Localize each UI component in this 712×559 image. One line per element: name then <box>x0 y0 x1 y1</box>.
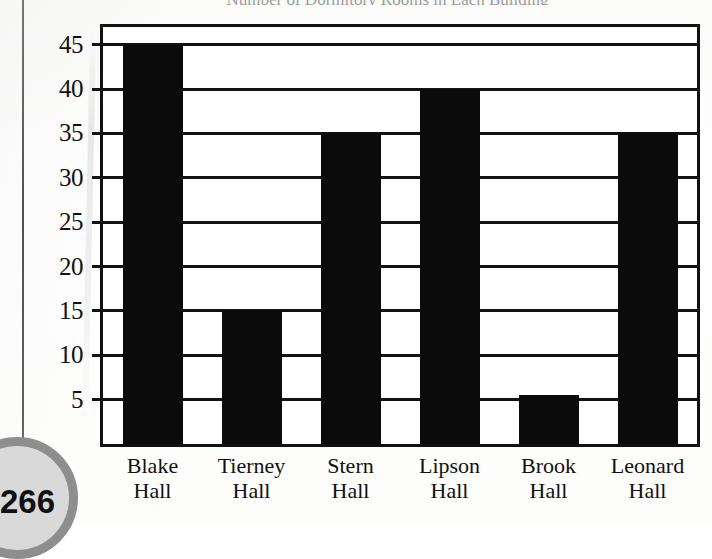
bar-leonard-hall <box>618 133 678 444</box>
x-axis-label-blake-hall: Blake Hall <box>103 453 202 503</box>
gridline-5 <box>103 398 697 401</box>
y-axis-label-40: 40 <box>59 76 83 101</box>
x-axis-label-stern-hall: Stern Hall <box>301 453 400 503</box>
y-axis-tick-35 <box>92 132 103 135</box>
plot-inner <box>103 27 697 444</box>
gridline-30 <box>103 176 697 179</box>
bar-chart-plot-area <box>100 24 700 447</box>
y-axis-tick-20 <box>92 265 103 268</box>
y-axis-label-30: 30 <box>59 165 83 190</box>
y-axis-label-5: 5 <box>71 387 83 412</box>
y-axis-label-10: 10 <box>59 342 83 367</box>
gridline-15 <box>103 309 697 312</box>
y-axis-tick-30 <box>92 176 103 179</box>
y-axis-label-45: 45 <box>59 32 83 57</box>
y-axis-tick-5 <box>92 398 103 401</box>
bar-stern-hall <box>321 133 381 444</box>
x-axis-label-brook-hall: Brook Hall <box>499 453 598 503</box>
y-axis-label-25: 25 <box>59 209 83 234</box>
y-axis-label-15: 15 <box>59 298 83 323</box>
bar-lipson-hall <box>420 89 480 444</box>
bar-blake-hall <box>123 45 183 444</box>
page-number: 266 <box>0 485 55 518</box>
gridline-10 <box>103 354 697 357</box>
x-axis-label-tierney-hall: Tierney Hall <box>202 453 301 503</box>
y-axis-label-20: 20 <box>59 254 83 279</box>
gridline-40 <box>103 88 697 91</box>
x-axis-label-lipson-hall: Lipson Hall <box>400 453 499 503</box>
chart-title: Number of Dormitory Rooms in Each Buildi… <box>100 0 675 5</box>
y-axis-tick-45 <box>92 43 103 46</box>
gridline-45 <box>103 43 697 46</box>
y-axis-tick-40 <box>92 88 103 91</box>
bar-brook-hall <box>519 395 579 444</box>
bar-tierney-hall <box>222 311 282 444</box>
y-axis-label-35: 35 <box>59 120 83 145</box>
gridline-25 <box>103 221 697 224</box>
y-axis-tick-10 <box>92 354 103 357</box>
gridline-35 <box>103 132 697 135</box>
y-axis-tick-15 <box>92 309 103 312</box>
x-axis-label-leonard-hall: Leonard Hall <box>598 453 697 503</box>
gridline-20 <box>103 265 697 268</box>
y-axis-tick-25 <box>92 221 103 224</box>
